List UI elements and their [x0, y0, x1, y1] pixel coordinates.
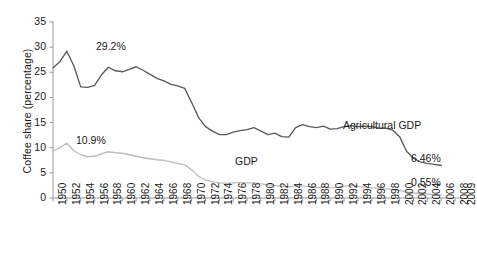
x-tick-label: 1964 [154, 183, 165, 205]
y-tick-label: 10 [24, 141, 46, 153]
x-tick-label: 1962 [140, 183, 151, 205]
x-tick-label: 1978 [251, 183, 262, 205]
x-tick-label: 1996 [376, 183, 387, 205]
x-tick-label: 1954 [85, 183, 96, 205]
x-tick-label: 1956 [99, 183, 110, 205]
x-tick-label: 1980 [265, 183, 276, 205]
y-tick-label: 35 [24, 15, 46, 27]
x-tick-label: 1998 [390, 183, 401, 205]
x-tick-label: 1960 [126, 183, 137, 205]
x-tick-label: 1986 [307, 183, 318, 205]
x-tick-label: 1952 [71, 183, 82, 205]
x-tick-label: 1970 [196, 183, 207, 205]
series-label-agricultural-gdp: Agricultural GDP [343, 119, 421, 131]
x-tick-label: 2006 [445, 183, 456, 205]
x-tick-label: 2009 [466, 183, 477, 205]
y-tick-label: 0 [24, 191, 46, 203]
x-tick-label: 1966 [168, 183, 179, 205]
x-tick-label: 1958 [112, 183, 123, 205]
x-tick-label: 1972 [210, 183, 221, 205]
x-tick-label: 1974 [223, 183, 234, 205]
x-tick-label: 1968 [182, 183, 193, 205]
series-line-agricultural-gdp [53, 51, 441, 165]
x-tick-label: 1994 [362, 183, 373, 205]
value-annotation: 6.46% [411, 152, 441, 164]
y-tick-label: 20 [24, 90, 46, 102]
x-tick-label: 1984 [293, 183, 304, 205]
y-tick-label: 30 [24, 40, 46, 52]
x-tick-label: 1988 [320, 183, 331, 205]
x-tick-label: 1950 [57, 183, 68, 205]
series-label-gdp: GDP [235, 155, 258, 167]
x-tick-label: 1990 [334, 183, 345, 205]
y-tick-label: 5 [24, 166, 46, 178]
y-tick-label: 15 [24, 116, 46, 128]
y-tick-label: 25 [24, 65, 46, 77]
x-tick-label: 1982 [279, 183, 290, 205]
value-annotation: 0.55% [411, 176, 441, 188]
value-annotation: 29.2% [96, 40, 126, 52]
value-annotation: 10.9% [76, 134, 106, 146]
x-tick-label: 1976 [237, 183, 248, 205]
x-tick-label: 1992 [348, 183, 359, 205]
